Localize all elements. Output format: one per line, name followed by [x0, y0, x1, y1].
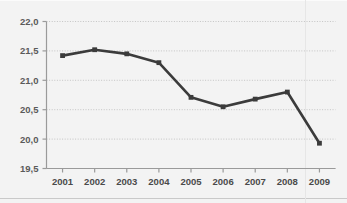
- data-point-marker: [189, 95, 194, 100]
- data-point-markers: [60, 47, 322, 145]
- data-point-marker: [253, 97, 258, 102]
- data-point-marker: [60, 53, 65, 58]
- data-point-marker: [221, 104, 226, 109]
- line-chart: 19,520,020,521,021,522,0 200120022003200…: [0, 0, 347, 203]
- x-tick-label: 2005: [180, 176, 202, 187]
- x-tick-label: 2002: [84, 176, 105, 187]
- x-tick-label: 2006: [213, 176, 234, 187]
- data-point-marker: [317, 141, 322, 146]
- x-tick-label: 2003: [116, 176, 137, 187]
- x-tick-label: 2004: [148, 176, 170, 187]
- x-tick-label: 2009: [309, 176, 330, 187]
- y-tick-label: 19,5: [20, 163, 39, 174]
- x-tick-label: 2008: [277, 176, 298, 187]
- x-tick-label: 2007: [245, 176, 266, 187]
- y-tick-label: 20,5: [20, 104, 39, 115]
- data-point-marker: [124, 51, 129, 56]
- data-point-marker: [92, 47, 97, 52]
- x-tick-label: 2001: [52, 176, 74, 187]
- y-tick-label: 22,0: [20, 16, 39, 27]
- y-axis-tick-labels: 19,520,020,521,021,522,0: [20, 16, 39, 174]
- plot-area: 19,520,020,521,021,522,0 200120022003200…: [0, 0, 347, 203]
- y-tick-label: 21,5: [20, 45, 39, 56]
- data-point-marker: [285, 90, 290, 95]
- x-axis-tick-labels: 200120022003200420052006200720082009: [52, 176, 330, 187]
- data-point-marker: [156, 60, 161, 65]
- y-tick-label: 20,0: [20, 134, 39, 145]
- x-axis-ticks: [63, 169, 320, 173]
- y-tick-label: 21,0: [20, 75, 39, 86]
